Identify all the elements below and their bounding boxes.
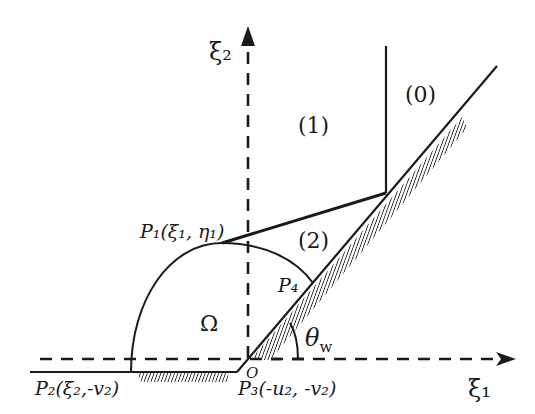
wedge-wall bbox=[237, 66, 497, 372]
region-1-label: (1) bbox=[298, 113, 329, 138]
xi2-arrow-icon bbox=[241, 26, 255, 46]
point-p1-label: P₁(ξ₁, η₁) bbox=[139, 220, 224, 242]
angle-theta-w-label: θw bbox=[305, 324, 332, 356]
point-p2-label: P₂(ξ₂,-v₂) bbox=[34, 377, 119, 399]
omega-label: Ω bbox=[200, 311, 218, 336]
xi1-arrow-icon bbox=[496, 352, 516, 366]
region-0-label: (0) bbox=[405, 82, 436, 107]
bottom-wall-hatching bbox=[137, 373, 229, 382]
xi2-axis-label: ξ₂ bbox=[209, 38, 232, 66]
xi1-axis-label: ξ₁ bbox=[468, 375, 491, 403]
sonic-arc bbox=[131, 243, 313, 372]
region-2-label: (2) bbox=[298, 228, 329, 253]
shock-reflection-diagram: ξ₂ ξ₁ O (0) (1) (2) Ω P₁(ξ₁, η₁) P₄ P₂(ξ… bbox=[0, 0, 535, 414]
wedge-hatching bbox=[250, 117, 467, 360]
point-p4-label: P₄ bbox=[277, 274, 298, 296]
point-p3-label: P₃(-u₂, -v₂) bbox=[237, 377, 336, 399]
xi2-axis bbox=[241, 26, 255, 362]
